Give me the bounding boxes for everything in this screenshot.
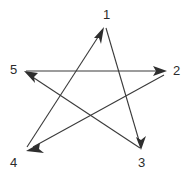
node-label-4: 4	[10, 156, 17, 169]
node-label-2: 2	[173, 64, 180, 77]
arrowhead-at-3	[136, 136, 146, 150]
pentagram-diagram: 1 2 3 4 5	[0, 0, 192, 179]
node-label-5: 5	[10, 63, 17, 76]
node-label-3: 3	[138, 156, 145, 169]
edge-3-to-5	[24, 71, 140, 148]
arrowhead-at-5	[24, 71, 38, 83]
node-label-1: 1	[103, 8, 110, 21]
edge-1-to-3	[106, 28, 146, 150]
edge-line-1-3	[106, 28, 140, 144]
edge-5-to-2	[26, 66, 167, 76]
edge-line-2-4	[33, 75, 164, 147]
star-graph-svg	[0, 0, 192, 179]
